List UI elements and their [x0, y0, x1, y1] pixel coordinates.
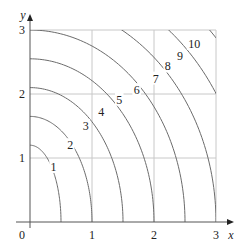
- contour-label-10: 10: [188, 37, 200, 51]
- contour-curve-7: [30, 0, 247, 222]
- contour-label-9: 9: [177, 49, 183, 63]
- contour-label-3: 3: [83, 119, 89, 133]
- x-tick-label: 3: [213, 228, 219, 242]
- tick-labels: 0123123xy: [19, 8, 234, 242]
- contour-label-2: 2: [67, 138, 73, 152]
- y-axis-label: y: [19, 8, 26, 22]
- y-tick-label: 3: [19, 23, 25, 37]
- y-tick-label: 2: [19, 87, 25, 101]
- contour-curve-5: [30, 30, 185, 222]
- contour-label-1: 1: [51, 160, 57, 174]
- contour-curve-10: [30, 0, 247, 222]
- contour-label-8: 8: [165, 59, 171, 73]
- x-tick-label: 2: [151, 228, 157, 242]
- y-axis-arrow-icon: [27, 14, 33, 21]
- contour-label-5: 5: [116, 93, 122, 107]
- contour-labels: 12345678910: [49, 37, 201, 174]
- contour-label-7: 7: [153, 72, 159, 86]
- contour-curve-8: [30, 0, 247, 222]
- origin-label: 0: [19, 228, 25, 242]
- y-tick-label: 1: [19, 151, 25, 165]
- contour-label-6: 6: [134, 83, 140, 97]
- x-axis-arrow-icon: [227, 219, 234, 225]
- x-axis-label: x: [227, 228, 234, 242]
- contour-plot: 12345678910 0123123xy: [0, 0, 247, 244]
- contour-curve-1: [30, 145, 61, 222]
- contour-curves: [30, 0, 247, 222]
- x-tick-label: 1: [89, 228, 95, 242]
- contour-curve-9: [30, 0, 247, 222]
- contour-label-4: 4: [98, 105, 104, 119]
- contour-curve-3: [30, 88, 123, 222]
- grid-lines: [30, 30, 216, 222]
